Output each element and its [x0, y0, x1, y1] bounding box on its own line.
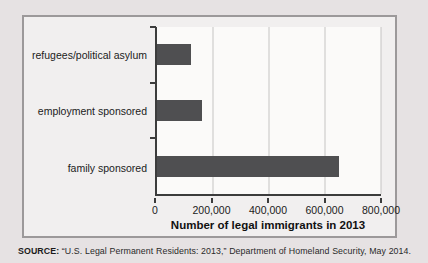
x-tick-label: 600,000 — [306, 204, 344, 216]
bar-refugees — [157, 44, 191, 65]
x-axis-title: Number of legal immigrants in 2013 — [155, 219, 381, 231]
x-tick-mark — [380, 198, 382, 203]
x-tick-label: 200,000 — [193, 204, 231, 216]
category-labels: refugees/political asylum employment spo… — [24, 27, 155, 196]
plot-area — [155, 27, 381, 196]
x-tick-mark — [154, 198, 156, 203]
category-label-employment: employment sponsored — [24, 83, 155, 139]
bar-band-family — [157, 138, 381, 194]
source-text: “U.S. Legal Permanent Residents: 2013,” … — [59, 246, 411, 256]
category-label-family: family sponsored — [24, 140, 155, 196]
x-axis: 0200,000400,000600,000800,000 Number of … — [155, 198, 381, 236]
bar-band-refugees — [157, 27, 381, 83]
x-tick-label: 800,000 — [362, 204, 400, 216]
page-background: refugees/political asylum employment spo… — [0, 0, 428, 263]
x-tick-label: 0 — [152, 204, 158, 216]
x-tick-label: 400,000 — [249, 204, 287, 216]
source-note: SOURCE: “U.S. Legal Permanent Residents:… — [18, 246, 418, 256]
x-tick-mark — [267, 198, 269, 203]
bars — [157, 27, 381, 194]
x-tick-mark — [211, 198, 213, 203]
y-axis-tick — [150, 82, 156, 84]
bar-band-employment — [157, 83, 381, 139]
y-axis-tick — [150, 137, 156, 139]
source-label: SOURCE: — [18, 246, 59, 256]
chart-panel: refugees/political asylum employment spo… — [22, 15, 397, 238]
y-axis-tick — [150, 26, 156, 28]
bar-employment — [157, 100, 202, 121]
bar-family — [157, 156, 339, 177]
x-tick-mark — [324, 198, 326, 203]
category-label-refugees: refugees/political asylum — [24, 27, 155, 83]
